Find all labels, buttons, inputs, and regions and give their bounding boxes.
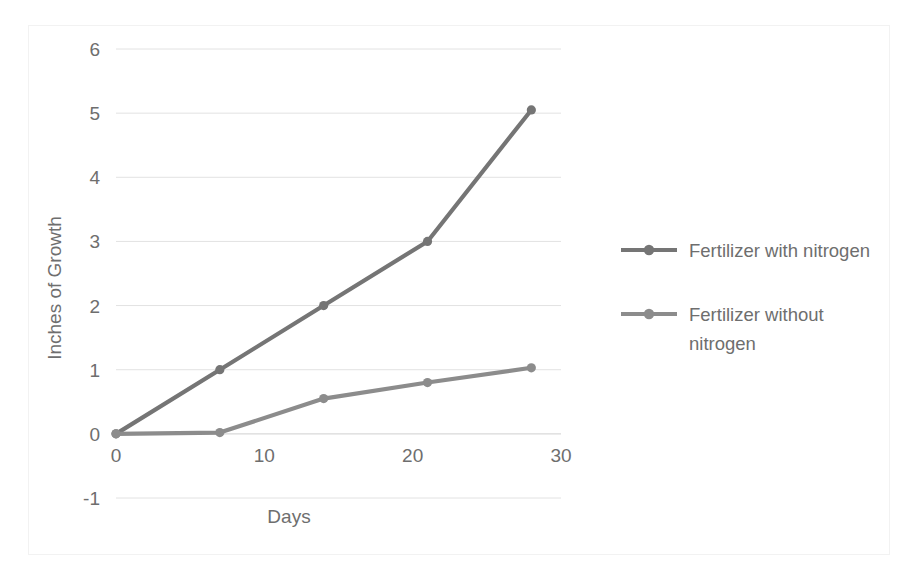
legend-label: nitrogen <box>689 333 756 354</box>
chart-legend: Fertilizer with nitrogenFertilizer witho… <box>621 240 870 354</box>
y-tick-label: 1 <box>89 360 100 381</box>
legend-label: Fertilizer with nitrogen <box>689 240 870 261</box>
x-axis-tick-labels: 0102030 <box>111 445 572 466</box>
chart-frame: -10123456 0102030 Fertilizer with nitrog… <box>28 25 890 555</box>
chart-canvas: -10123456 0102030 Fertilizer with nitrog… <box>29 26 891 556</box>
y-tick-label: 4 <box>89 167 100 188</box>
y-axis-title: Inches of Growth <box>44 216 65 360</box>
series-line-1 <box>116 110 531 434</box>
y-tick-label: 3 <box>89 231 100 252</box>
x-tick-label: 30 <box>550 445 571 466</box>
data-point-marker <box>215 428 224 437</box>
y-tick-label: 6 <box>89 39 100 60</box>
x-tick-label: 20 <box>402 445 423 466</box>
data-point-marker <box>423 378 432 387</box>
y-tick-label: 2 <box>89 296 100 317</box>
data-point-marker <box>319 394 328 403</box>
data-point-marker <box>215 365 224 374</box>
data-point-marker <box>423 237 432 246</box>
gridlines-group <box>116 49 561 498</box>
legend-marker-point <box>644 309 654 319</box>
x-tick-label: 10 <box>254 445 275 466</box>
y-tick-label: 0 <box>89 424 100 445</box>
data-point-marker <box>527 105 536 114</box>
data-point-marker <box>527 363 536 372</box>
y-tick-label: 5 <box>89 103 100 124</box>
y-tick-label: -1 <box>83 488 100 509</box>
y-axis-tick-labels: -10123456 <box>83 39 100 509</box>
legend-label: Fertilizer without <box>689 304 824 325</box>
x-axis-title: Days <box>267 506 310 527</box>
data-point-marker <box>319 301 328 310</box>
x-tick-label: 0 <box>111 445 122 466</box>
data-series-group <box>111 105 536 438</box>
data-point-marker <box>111 429 120 438</box>
legend-marker-point <box>644 245 654 255</box>
